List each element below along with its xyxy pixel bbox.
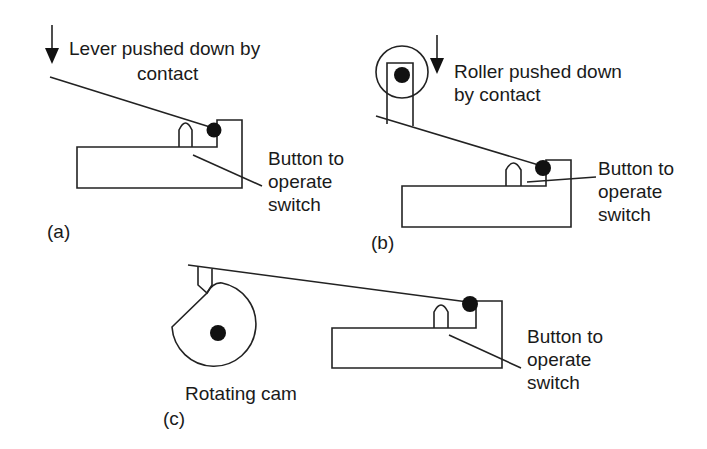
panel-a-title-line-2: contact — [137, 63, 199, 84]
cam-label: Rotating cam — [185, 383, 297, 404]
panel-c: Button to operate switch Rotating cam (c… — [163, 265, 603, 429]
switch-body — [332, 301, 502, 368]
panel-b-title-line-2: by contact — [454, 84, 541, 105]
down-arrow-icon — [45, 25, 59, 64]
callout-leader — [449, 335, 521, 368]
pivot-dot-icon — [535, 160, 551, 176]
lever-arm — [50, 77, 210, 127]
panel-b-caption: (b) — [371, 232, 394, 253]
pivot-dot-icon — [207, 123, 222, 138]
button-plunger — [506, 163, 521, 186]
panel-a-callout-line-3: switch — [268, 194, 321, 215]
button-plunger — [434, 305, 448, 328]
panel-a: Lever pushed down by contact Button to o… — [45, 25, 344, 242]
cam-icon — [172, 283, 256, 366]
panel-b-title-line-1: Roller pushed down — [454, 61, 622, 82]
pivot-dot-icon — [462, 296, 478, 312]
down-arrow-icon — [430, 35, 444, 74]
panel-a-callout-line-2: operate — [268, 171, 332, 192]
panel-a-title-line-1: Lever pushed down by — [69, 38, 261, 59]
lever-arm — [376, 116, 542, 166]
panel-b: Roller pushed down by contact Button to … — [371, 35, 674, 253]
panel-c-callout-line-3: switch — [527, 372, 580, 393]
lever-arm — [188, 265, 468, 302]
roller-icon — [376, 46, 428, 126]
button-plunger — [179, 123, 192, 147]
callout-leader — [193, 155, 262, 186]
panel-b-callout-line-1: Button to — [598, 158, 674, 179]
panel-b-callout-line-3: switch — [598, 204, 651, 225]
panel-c-callout-line-2: operate — [527, 349, 591, 370]
panel-c-callout-line-1: Button to — [527, 326, 603, 347]
panel-b-callout-line-2: operate — [598, 181, 662, 202]
panel-a-caption: (a) — [47, 221, 70, 242]
panel-a-callout-line-1: Button to — [268, 148, 344, 169]
callout-leader — [527, 177, 596, 182]
panel-c-caption: (c) — [163, 408, 185, 429]
limit-switch-diagram: Lever pushed down by contact Button to o… — [0, 0, 707, 449]
